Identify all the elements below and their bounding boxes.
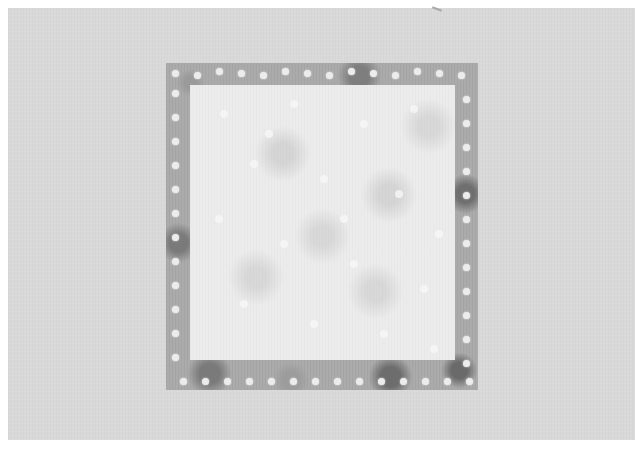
polka-dot [463,240,470,247]
faint-dot [420,285,428,293]
polka-dot [348,68,355,75]
polka-dot [172,234,179,241]
polka-dot [180,378,187,385]
faint-dot [280,240,288,248]
faint-dot [360,120,368,128]
polka-dot [194,72,201,79]
polka-dot [216,68,223,75]
polka-dot [334,378,341,385]
polka-dot [172,258,179,265]
polka-dot [290,378,297,385]
polka-dot [172,162,179,169]
polka-dot [414,68,421,75]
polka-dot [463,264,470,271]
polka-dot [463,96,470,103]
polka-dot [392,72,399,79]
faint-dot [430,345,438,353]
polka-dot [172,114,179,121]
faint-dot [265,130,273,138]
faint-dot [220,110,228,118]
polka-dot [172,330,179,337]
polka-dot [172,70,179,77]
polka-dot [172,210,179,217]
faint-dot [250,160,258,168]
faint-dot [320,175,328,183]
faint-dot [435,230,443,238]
faint-dot [290,100,298,108]
polka-dot [463,288,470,295]
polka-dot [463,192,470,199]
faint-dot [350,260,358,268]
polka-dot [246,378,253,385]
polka-dot [463,336,470,343]
faint-dot [395,190,403,198]
polka-dot [356,378,363,385]
polka-dot [370,70,377,77]
polka-dot [268,378,275,385]
polka-dot [282,68,289,75]
faint-dot [215,215,223,223]
faint-dot [410,105,418,113]
faint-dot [240,300,248,308]
faint-dot [310,320,318,328]
polka-dot [444,378,451,385]
center-fabric-square [190,85,455,360]
polka-dot [466,378,473,385]
polka-dot [436,70,443,77]
polka-dot [260,72,267,79]
faint-dot [380,330,388,338]
polka-dot [172,306,179,313]
polka-dot [172,282,179,289]
polka-dot [463,312,470,319]
polka-dot [326,72,333,79]
polka-dot [172,354,179,361]
polka-dot [463,168,470,175]
polka-dot [224,378,231,385]
polka-dot [458,72,465,79]
polka-dot [202,378,209,385]
polka-dot [463,144,470,151]
polka-dot [422,378,429,385]
polka-dot [238,70,245,77]
faint-dot [340,215,348,223]
polka-dot [172,186,179,193]
polka-dot [172,90,179,97]
polka-dot [463,120,470,127]
polka-dot [312,378,319,385]
polka-dot [463,360,470,367]
polka-dot [172,138,179,145]
polka-dot [378,378,385,385]
polka-dot [463,216,470,223]
polka-dot [304,70,311,77]
polka-dot [400,378,407,385]
